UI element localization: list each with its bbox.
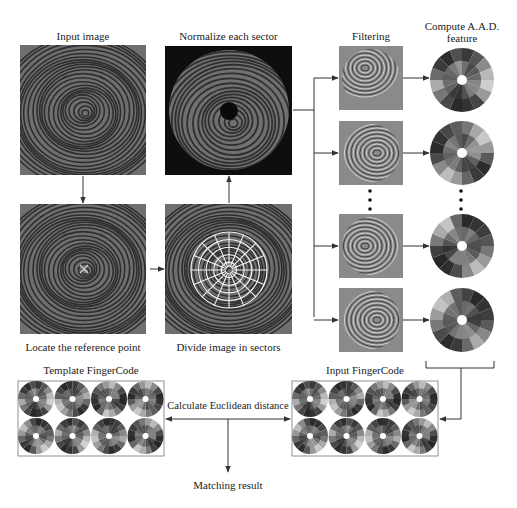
fingercode-disk [91,418,127,454]
fingercode-disk [365,381,401,417]
fingercode-disk [329,418,365,454]
aad-feature-disk-3 [430,214,494,278]
label-input-image: Input image [20,30,146,42]
fingercode-disk [402,381,438,417]
filtered-image-3 [332,214,403,278]
filter-bank [332,39,409,352]
divide-sectors-panel [144,194,310,344]
aad-feature-disk-4 [430,288,494,352]
arrow-aad-to-input-fingercode [440,368,461,419]
label-locate: Locate the reference point [10,341,156,353]
label-euclidean: Calculate Euclidean distance [164,400,292,412]
fingercode-pipeline-diagram [0,0,517,508]
fingercode-disk [18,381,54,417]
fingercode-disk [128,381,164,417]
filtered-image-1 [332,39,403,110]
fingercode-disk [329,381,365,417]
input-image-panel [0,36,166,186]
fingercode-disk [55,418,91,454]
label-input-fingercode: Input FingerCode [292,364,438,376]
aad-feature-disk-1 [430,48,494,112]
normalize-panel [145,42,321,202]
label-normalize: Normalize each sector [155,30,302,42]
fingercode-disk [402,418,438,454]
reference-hole [220,102,238,120]
template-fingercode-box [18,381,164,456]
filtered-image-4 [339,288,410,352]
ellipsis-dots-icon [368,189,463,211]
filtered-image-2 [339,121,410,185]
input-fingercode-box [292,381,438,456]
label-template-fingercode: Template FingerCode [18,364,164,376]
label-compute-aad-1: Compute A.A.D. [420,20,504,32]
fingercode-disk [91,381,127,417]
label-divide: Divide image in sectors [155,341,302,353]
fingercode-disk [18,418,54,454]
fingercode-disk [55,381,91,417]
aad-feature-disk-2 [430,121,494,185]
label-filtering: Filtering [339,30,403,42]
fingercode-disk [128,418,164,454]
locate-reference-panel [0,194,166,344]
fingercode-disk [292,418,328,454]
label-compute-aad-2: feature [420,32,504,44]
fingercode-disk [292,381,328,417]
label-matching-result: Matching result [178,479,278,491]
fingercode-disk [365,418,401,454]
